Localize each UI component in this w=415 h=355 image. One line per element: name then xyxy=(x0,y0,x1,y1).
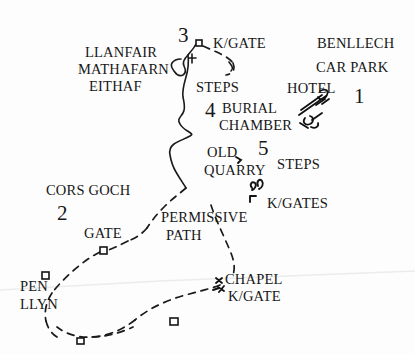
stop-number-1: 1 xyxy=(354,85,365,107)
label-old: OLD xyxy=(207,145,237,160)
label-chamber: CHAMBER xyxy=(219,118,292,133)
label-permissive: PERMISSIVE xyxy=(161,210,248,225)
sketch-map: 3 1 4 5 2 LLANFAIR MATHAFARN EITHAF K/GA… xyxy=(0,0,415,355)
label-path: PATH xyxy=(166,228,202,243)
label-car-park: CAR PARK xyxy=(316,60,388,75)
label-hotel: HOTEL xyxy=(287,81,336,96)
label-eithaf: EITHAF xyxy=(89,79,142,94)
label-cors-goch: CORS GOCH xyxy=(46,183,130,198)
label-mathafarn: MATHAFARN xyxy=(78,62,169,77)
label-kgate-top: K/GATE xyxy=(213,36,266,51)
label-llanfair: LLANFAIR xyxy=(85,45,157,60)
label-chapel: CHAPEL xyxy=(225,272,283,287)
label-chapel-kgate: K/GATE xyxy=(228,289,281,304)
label-llyn: LLYN xyxy=(20,297,58,312)
label-pen: PEN xyxy=(20,279,48,294)
label-steps-upper: STEPS xyxy=(196,80,239,95)
scan-artifact-line xyxy=(0,271,415,290)
label-gate: GATE xyxy=(84,226,122,241)
stop-number-4: 4 xyxy=(205,99,216,121)
label-quarry: QUARRY xyxy=(204,163,266,178)
stop-number-3: 3 xyxy=(178,24,189,46)
label-benllech: BENLLECH xyxy=(317,36,394,51)
label-burial: BURIAL xyxy=(222,101,277,116)
label-kgates: K/GATES xyxy=(267,196,328,211)
label-steps-lower: STEPS xyxy=(277,157,320,172)
stop-number-2: 2 xyxy=(57,202,68,224)
stop-number-5: 5 xyxy=(258,137,269,159)
